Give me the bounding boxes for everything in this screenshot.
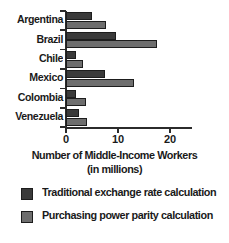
legend-item: Traditional exchange rate calculation [21, 186, 221, 209]
value-tick-label: 0 [63, 133, 69, 145]
bar-argentina-series-2 [66, 21, 106, 29]
bar-chart-figure: ArgentinaBrazilChileMexicoColombiaVenezu… [0, 0, 229, 243]
category-label: Brazil [6, 33, 63, 45]
x-axis-title-line-2: (in millions) [7, 162, 222, 176]
category-tick [60, 10, 66, 12]
chart-legend: Traditional exchange rate calculationPur… [21, 186, 221, 232]
x-axis-title-line-1: Number of Middle-Income Workers [7, 148, 222, 162]
bar-brazil-series-1 [66, 32, 116, 40]
bar-colombia-series-2 [66, 98, 86, 106]
legend-label: Traditional exchange rate calculation [42, 186, 216, 198]
bar-brazil-series-2 [66, 40, 157, 48]
x-axis-title: Number of Middle-Income Workers (in mill… [0, 148, 229, 176]
category-axis-line [65, 127, 192, 129]
bar-chile-series-1 [66, 51, 76, 59]
bar-mexico-series-2 [66, 79, 134, 87]
category-label: Colombia [6, 91, 63, 103]
bar-colombia-series-1 [66, 90, 76, 98]
category-tick [60, 126, 66, 128]
category-label: Chile [6, 52, 63, 64]
value-tick-label: 10 [112, 133, 124, 145]
bar-mexico-series-1 [66, 70, 105, 78]
category-label: Venezuela [6, 110, 63, 122]
category-tick [60, 68, 66, 70]
bar-argentina-series-1 [66, 12, 92, 20]
bar-chile-series-2 [66, 60, 83, 68]
plot-area: ArgentinaBrazilChileMexicoColombiaVenezu… [0, 0, 229, 140]
category-tick [60, 29, 66, 31]
legend-item: Purchasing power parity calculation [21, 209, 221, 232]
category-label: Mexico [6, 71, 63, 83]
category-label: Argentina [6, 13, 63, 25]
category-tick [60, 107, 66, 109]
category-axis-labels: ArgentinaBrazilChileMexicoColombiaVenezu… [0, 0, 63, 128]
legend-swatch [21, 188, 33, 200]
category-tick [60, 49, 66, 51]
legend-label: Purchasing power parity calculation [42, 209, 213, 221]
value-tick-label: 20 [164, 133, 176, 145]
bar-venezuela-series-1 [66, 109, 79, 117]
bar-venezuela-series-2 [66, 118, 87, 126]
category-tick [60, 88, 66, 90]
legend-swatch [21, 211, 33, 223]
